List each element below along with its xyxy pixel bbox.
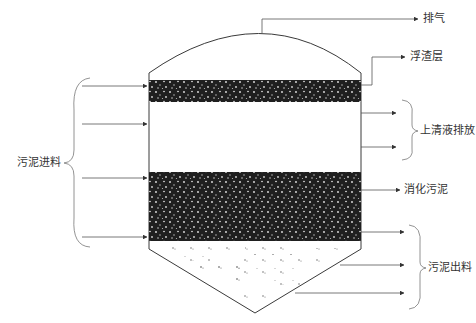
sludge-discharge-label: 污泥出料 (428, 262, 472, 274)
scum-outlet-line (361, 57, 405, 85)
digested-sludge-layer (149, 172, 361, 241)
digester-diagram (0, 0, 476, 323)
sludge-feed-arrows (82, 86, 147, 237)
scum-layer-label: 浮渣层 (410, 51, 443, 63)
dome-roof (149, 34, 361, 74)
sludge-feed-brace (64, 78, 90, 247)
scum-layer (149, 80, 361, 102)
tank (149, 34, 361, 314)
sludge-discharge-brace (409, 225, 426, 309)
gas-outlet-label: 排气 (423, 13, 445, 25)
supernatant-arrows (361, 113, 396, 147)
supernatant-discharge-label: 上清液排放 (420, 125, 475, 137)
supernatant-brace (402, 100, 418, 160)
digested-sludge-label: 消化污泥 (404, 184, 448, 196)
gas-outlet-line (262, 19, 418, 33)
sludge-feed-label: 污泥进料 (17, 157, 61, 169)
